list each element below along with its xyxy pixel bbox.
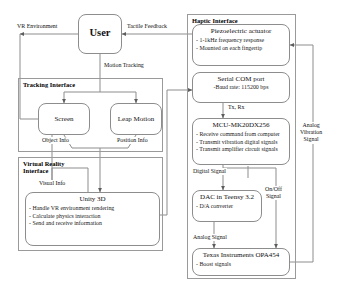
node-user-label: User — [79, 26, 121, 39]
list-item: - 1-1kHz frequency response — [196, 37, 289, 45]
node-opa454-bullets: - Boost signals — [193, 261, 289, 269]
node-unity-3d-bullets: - Handle VR environment rendering - Calc… — [26, 205, 159, 228]
node-mcu[interactable]: MCU-MK20DX256 - Receive command from com… — [192, 118, 290, 165]
group-title-tracking-interface: Tracking Interface — [23, 81, 75, 88]
system-architecture-diagram: Tracking Interface Virtual Reality Inter… — [0, 0, 340, 299]
node-screen[interactable]: Screen — [38, 103, 90, 135]
node-serial-com-port[interactable]: Serial COM port -Baud rate: 115200 bps — [192, 72, 290, 103]
list-item: - Handle VR environment rendering — [29, 205, 159, 213]
node-opa454[interactable]: Texas Instruments OPA454 - Boost signals — [192, 248, 290, 276]
list-item: - Boost signals — [196, 261, 289, 269]
node-leap-motion[interactable]: Leap Motion — [110, 103, 162, 135]
node-piezoelectric-actuator-bullets: - 1-1kHz frequency response - Mounted on… — [193, 37, 289, 52]
node-unity-3d[interactable]: Unity 3D - Handle VR environment renderi… — [25, 192, 160, 246]
node-piezoelectric-actuator-label: Piezoelectric actuator — [193, 27, 289, 36]
list-item: - Send and receive information — [29, 220, 159, 228]
list-item: - D/A converter — [196, 203, 261, 211]
edge-label-tx-rx: Tx, Rx — [227, 104, 245, 111]
list-item: - Calculate physics interaction — [29, 213, 159, 221]
node-screen-label: Screen — [39, 115, 89, 124]
node-opa454-label: Texas Instruments OPA454 — [193, 251, 289, 260]
node-serial-com-port-baud: -Baud rate: 115200 bps — [193, 84, 289, 92]
edge-label-vr-environment: VR Environment — [16, 23, 58, 30]
node-dac-teensy[interactable]: DAC in Teensy 3.2 - D/A converter — [192, 190, 262, 222]
node-mcu-bullets: - Receive command from computer - Transm… — [193, 131, 289, 154]
node-dac-teensy-bullets: - D/A converter — [193, 203, 261, 211]
edge-label-motion-tracking: Motion Tracking — [103, 62, 145, 69]
node-piezoelectric-actuator[interactable]: Piezoelectric actuator - 1-1kHz frequenc… — [192, 24, 290, 66]
edge-label-object-info: Object Info — [41, 137, 70, 144]
list-item: - Transmit amplifier circuit signals — [196, 146, 289, 154]
node-mcu-label: MCU-MK20DX256 — [193, 121, 289, 130]
group-title-virtual-reality-interface: Virtual Reality Interface — [23, 160, 65, 175]
node-user[interactable]: User — [78, 14, 122, 54]
node-unity-3d-label: Unity 3D — [26, 195, 159, 204]
edge-label-on-off-signal: On/Off Signal — [264, 186, 283, 200]
edge-label-tactile-feedback: Tactile Feedback — [126, 23, 168, 30]
edge-label-position-info: Position Info — [116, 137, 149, 144]
node-leap-motion-label: Leap Motion — [111, 115, 161, 124]
list-item: - Transmit vibration digital signals — [196, 139, 289, 147]
list-item: - Mounted on each fingertip — [196, 45, 289, 53]
list-item: - Receive command from computer — [196, 131, 289, 139]
edge-label-analog-signal: Analog Signal — [192, 234, 228, 241]
edge-label-visual-info: Visual Info — [38, 180, 66, 187]
edge-label-analog-vibration-signal: Analog Vibration Signal — [299, 122, 323, 144]
edge-label-digital-signal: Digital Signal — [192, 168, 227, 175]
node-dac-teensy-label: DAC in Teensy 3.2 — [193, 193, 261, 202]
node-serial-com-port-label: Serial COM port — [193, 75, 289, 84]
